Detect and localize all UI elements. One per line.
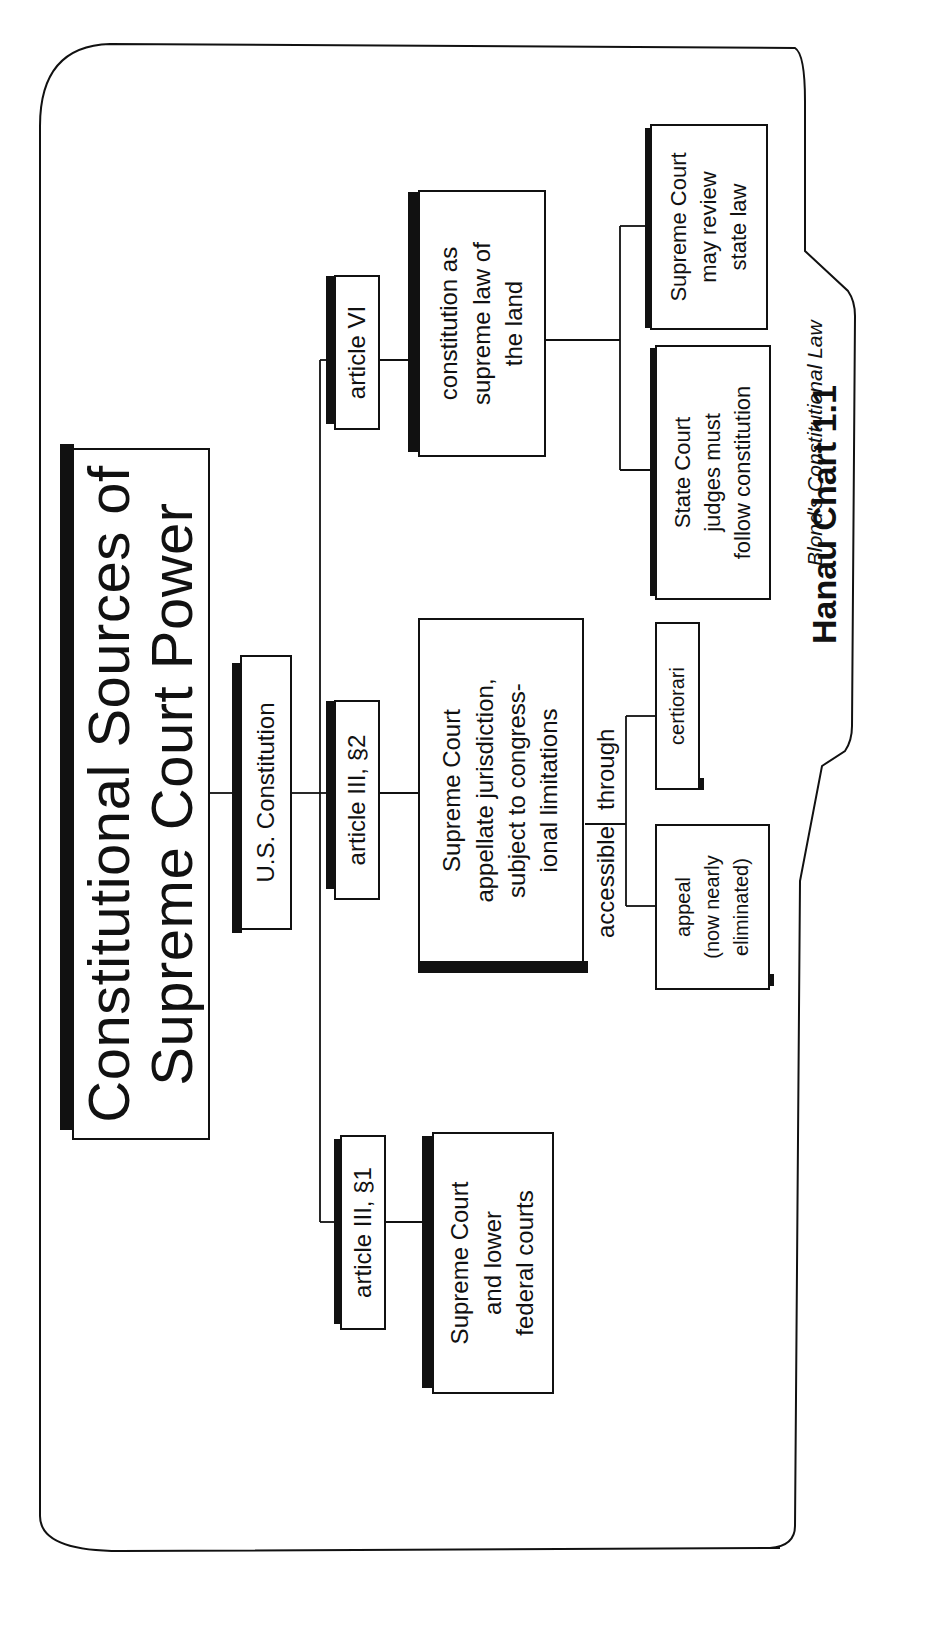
node-label: appeal (now nearly eliminated) [669, 855, 756, 958]
node-sc-lower-federal-courts: Supreme Court and lower federal courts [432, 1132, 554, 1394]
appeal-shadow [770, 974, 774, 986]
node-us-constitution: U.S. Constitution [240, 655, 292, 930]
diagram-canvas: Constitutional Sources of Supreme Court … [0, 0, 950, 1646]
node-label: article VI [341, 306, 373, 399]
node-label: Supreme Court may review state law [664, 152, 753, 301]
node-article-3-section-2: article III, §2 [334, 700, 380, 900]
node-label: Supreme Court appellate jurisdiction, su… [436, 678, 566, 902]
node-certiorari: certiorari [655, 622, 700, 790]
edge-label-accessible: accessible [592, 826, 620, 938]
node-label: U.S. Constitution [250, 702, 282, 882]
node-label: article III, §1 [347, 1167, 379, 1298]
node-label: Supreme Court and lower federal courts [444, 1182, 541, 1345]
node-label: State Court judges must follow constitut… [668, 386, 757, 560]
node-appeal: appeal (now nearly eliminated) [655, 824, 770, 990]
node-sc-appellate-jurisdiction: Supreme Court appellate jurisdiction, su… [418, 618, 584, 963]
title-line-2: Supreme Court Power [141, 465, 204, 1122]
node-label: constitution as supreme law of the land [433, 242, 530, 405]
node-article-3-section-1: article III, §1 [340, 1135, 386, 1330]
node-supreme-law-of-land: constitution as supreme law of the land [418, 190, 546, 457]
node-label: certiorari [663, 667, 692, 745]
diagram-title-box: Constitutional Sources of Supreme Court … [72, 448, 210, 1140]
node-sc-may-review-state-law: Supreme Court may review state law [650, 124, 768, 330]
title-line-1: Constitutional Sources of [78, 465, 141, 1122]
node-article-6: article VI [334, 275, 380, 430]
credit-label: Blond's Constitutional Law [803, 320, 827, 566]
node-label: article III, §2 [341, 735, 373, 866]
node-state-court-judges: State Court judges must follow constitut… [655, 345, 771, 600]
edge-label-through: through [592, 729, 620, 810]
